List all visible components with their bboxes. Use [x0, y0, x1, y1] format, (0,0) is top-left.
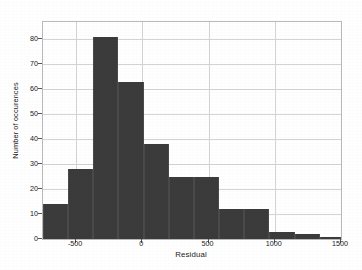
y-tick-label: 70 — [14, 59, 38, 68]
y-tick-mark — [38, 213, 42, 214]
y-tick-label: 60 — [14, 84, 38, 93]
y-tick-mark — [38, 238, 42, 239]
y-tick-mark — [38, 138, 42, 139]
x-tick-label: 1500 — [320, 239, 360, 248]
gridline-horizontal — [43, 39, 341, 40]
x-tick-label: 1000 — [254, 239, 294, 248]
gridline-horizontal — [43, 139, 341, 140]
histogram-bar — [244, 209, 269, 239]
x-axis-label: Residual — [42, 250, 340, 259]
y-tick-mark — [38, 163, 42, 164]
gridline-horizontal — [43, 164, 341, 165]
y-tick-label: 50 — [14, 109, 38, 118]
histogram-bar — [43, 204, 68, 239]
histogram-bar — [144, 144, 169, 239]
histogram-bar — [269, 232, 294, 239]
histogram-bar — [68, 169, 93, 239]
histogram-bar — [93, 37, 118, 239]
y-tick-label: 80 — [14, 34, 38, 43]
y-tick-label: 20 — [14, 184, 38, 193]
histogram-bar — [219, 209, 244, 239]
y-tick-label: 10 — [14, 209, 38, 218]
x-tick-label: -500 — [55, 239, 95, 248]
histogram-bar — [169, 177, 194, 239]
y-tick-mark — [38, 88, 42, 89]
histogram-bar — [118, 82, 143, 239]
gridline-horizontal — [43, 114, 341, 115]
y-tick-mark — [38, 188, 42, 189]
gridline-horizontal — [43, 64, 341, 65]
plot-area — [42, 21, 342, 240]
plot-inner — [43, 22, 341, 239]
y-tick-label: 30 — [14, 159, 38, 168]
x-tick-label: 0 — [121, 239, 161, 248]
gridline-horizontal — [43, 89, 341, 90]
x-tick-label: 500 — [188, 239, 228, 248]
gridline-vertical — [275, 22, 276, 239]
histogram-figure: Number of occurences 01020304050607080 -… — [0, 0, 362, 270]
y-tick-mark — [38, 113, 42, 114]
y-tick-label: 0 — [14, 234, 38, 243]
histogram-bar — [295, 234, 320, 239]
y-tick-label: 40 — [14, 134, 38, 143]
histogram-bar — [194, 177, 219, 239]
y-tick-mark — [38, 38, 42, 39]
y-tick-mark — [38, 63, 42, 64]
